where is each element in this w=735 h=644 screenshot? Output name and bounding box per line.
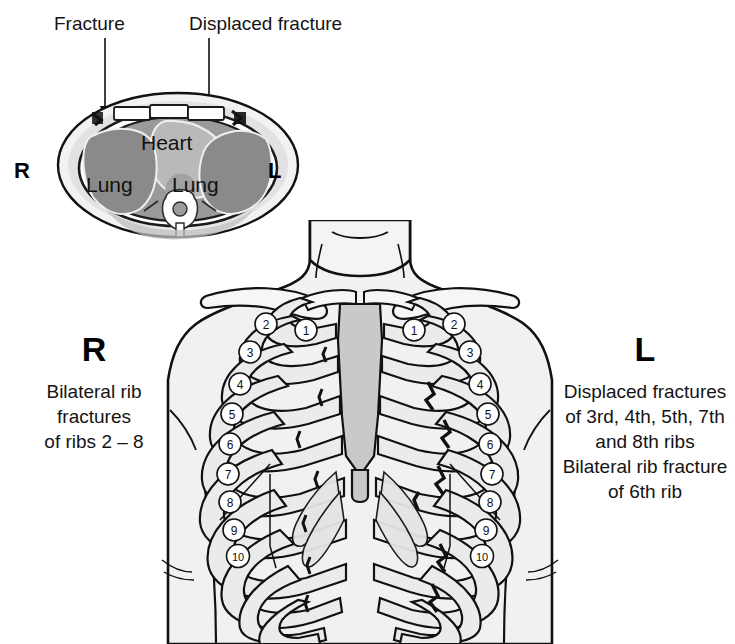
left-side-line-4: Bilateral rib fracture xyxy=(557,454,733,479)
rib-badge-right-7: 7 xyxy=(217,463,239,485)
rib-badge-right-3: 3 xyxy=(239,341,261,363)
rib-badge-left-7: 7 xyxy=(481,463,503,485)
rib-badge-left-10: 10 xyxy=(471,545,494,568)
ct-fracture-mark-simple xyxy=(92,112,103,125)
svg-text:4: 4 xyxy=(477,378,484,392)
rib-badge-left-9: 9 xyxy=(475,519,497,541)
svg-text:3: 3 xyxy=(247,346,254,360)
left-side-annotation: L Displaced fractures of 3rd, 4th, 5th, … xyxy=(557,330,733,504)
rib-badge-right-1: 1 xyxy=(295,319,317,341)
right-side-line-1: Bilateral rib xyxy=(8,379,180,404)
svg-text:4: 4 xyxy=(237,378,244,392)
ct-sternum xyxy=(114,105,224,120)
left-side-marker: L xyxy=(557,330,733,369)
rib-badge-right-5: 5 xyxy=(221,403,243,425)
ct-left-marker: L xyxy=(268,158,281,184)
fracture-callout-label: Fracture xyxy=(54,12,125,35)
svg-text:3: 3 xyxy=(467,346,474,360)
svg-text:6: 6 xyxy=(487,438,494,452)
left-side-line-3: and 8th ribs xyxy=(557,429,733,454)
rib-badge-right-4: 4 xyxy=(229,373,251,395)
svg-text:8: 8 xyxy=(487,496,494,510)
right-side-line-3: of ribs 2 – 8 xyxy=(8,429,180,454)
right-side-marker: R xyxy=(8,330,180,369)
rib-badge-left-1: 1 xyxy=(403,319,425,341)
left-side-line-1: Displaced fractures xyxy=(557,379,733,404)
svg-text:10: 10 xyxy=(232,551,244,563)
displaced-fracture-callout-label: Displaced fracture xyxy=(189,12,342,35)
svg-text:6: 6 xyxy=(227,438,234,452)
rib-badge-right-9: 9 xyxy=(223,519,245,541)
left-side-line-5: of 6th rib xyxy=(557,479,733,504)
svg-text:2: 2 xyxy=(263,318,270,332)
ct-fracture-mark-displaced xyxy=(232,111,246,125)
rib-badge-left-4: 4 xyxy=(469,373,491,395)
svg-text:1: 1 xyxy=(411,324,418,338)
ct-heart-label: Heart xyxy=(141,131,192,155)
rib-badge-right-2: 2 xyxy=(255,313,277,335)
rib-badge-left-6: 6 xyxy=(479,433,501,455)
svg-text:5: 5 xyxy=(229,408,236,422)
rib-number-badges: 1 1 2 3 4 5 6 7 8 9 10 2 3 4 5 6 7 8 9 1… xyxy=(150,220,570,644)
ct-lung-left-label: Lung xyxy=(172,173,219,197)
svg-text:9: 9 xyxy=(483,524,490,538)
svg-text:7: 7 xyxy=(225,468,232,482)
svg-text:8: 8 xyxy=(227,496,234,510)
svg-text:2: 2 xyxy=(451,318,458,332)
rib-badge-left-5: 5 xyxy=(477,403,499,425)
rib-badge-left-8: 8 xyxy=(479,491,501,513)
ct-lung-right-label: Lung xyxy=(86,173,133,197)
rib-badge-right-6: 6 xyxy=(219,433,241,455)
rib-badge-right-8: 8 xyxy=(219,491,241,513)
ct-right-marker: R xyxy=(14,158,30,184)
rib-badge-left-2: 2 xyxy=(443,313,465,335)
svg-text:9: 9 xyxy=(231,524,238,538)
left-side-line-2: of 3rd, 4th, 5th, 7th xyxy=(557,404,733,429)
svg-text:7: 7 xyxy=(489,468,496,482)
right-side-line-2: fractures xyxy=(8,404,180,429)
rib-badge-right-10: 10 xyxy=(227,545,250,568)
svg-text:5: 5 xyxy=(485,408,492,422)
svg-text:1: 1 xyxy=(303,324,310,338)
svg-text:10: 10 xyxy=(476,551,488,563)
right-side-annotation: R Bilateral rib fractures of ribs 2 – 8 xyxy=(8,330,180,454)
rib-badge-left-3: 3 xyxy=(459,341,481,363)
